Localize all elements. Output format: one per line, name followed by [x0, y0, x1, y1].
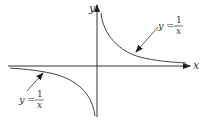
svg-text:y: y	[157, 20, 164, 31]
equation-label-top: y = 1 x	[157, 15, 183, 36]
svg-text:x: x	[37, 100, 42, 110]
equation-label-bottom: y = 1 x	[18, 89, 44, 110]
y-axis-label: y	[88, 2, 96, 15]
svg-text:x: x	[176, 26, 181, 36]
svg-text:=: =	[27, 94, 35, 105]
svg-text:y: y	[18, 94, 25, 105]
x-axis-label: x	[193, 59, 200, 72]
svg-text:1: 1	[176, 15, 182, 25]
svg-text:1: 1	[37, 89, 43, 99]
curve-branch-negative	[10, 68, 95, 116]
pointer-arrow-top	[136, 27, 158, 52]
svg-text:=: =	[166, 20, 174, 31]
hyperbola-diagram: x y y = 1 x y = 1 x	[0, 0, 204, 122]
